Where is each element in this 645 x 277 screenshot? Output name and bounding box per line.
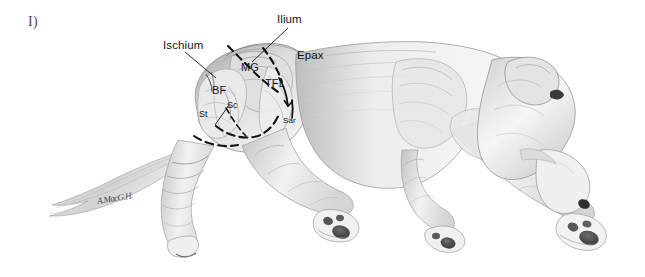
annotation-sar: Sar (283, 117, 296, 125)
annotation-sc: Sc (227, 101, 238, 110)
annotation-mg: MG (241, 62, 259, 73)
dog-anatomy-illustration (0, 0, 645, 277)
figure-panel: I) Ischium Ilium Epax MG TFL BF St Sc Sa… (0, 0, 645, 277)
annotation-tfl: TFL (265, 78, 285, 89)
annotation-ischium: Ischium (163, 40, 203, 52)
annotation-st: St (199, 110, 208, 119)
annotation-ilium: Ilium (277, 14, 302, 26)
panel-label: I) (28, 14, 38, 30)
dog-illustration-svg (0, 0, 645, 277)
annotation-bf: BF (212, 85, 226, 96)
annotation-epax: Epax (297, 50, 324, 62)
